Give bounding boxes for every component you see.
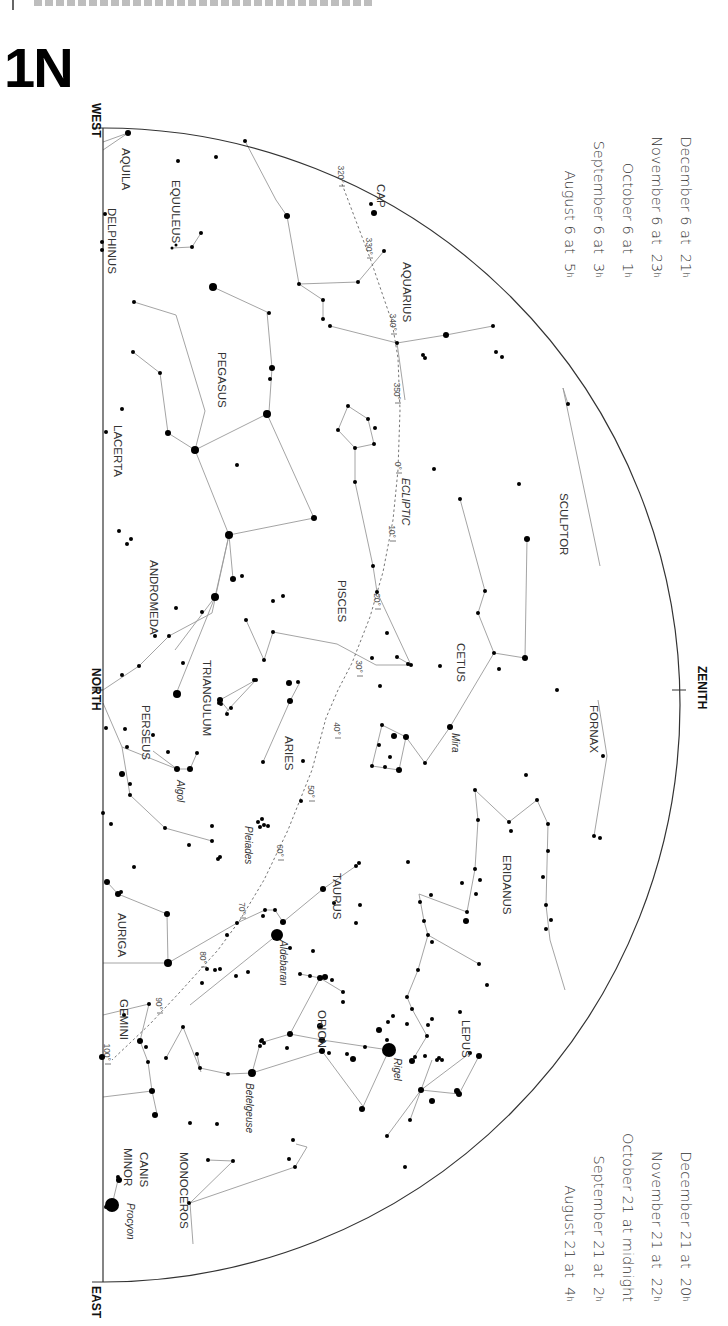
constellation-line [190, 1160, 233, 1244]
star [199, 231, 203, 235]
ecliptic-degree-label: 30° [354, 660, 364, 673]
star [507, 820, 511, 824]
star [298, 972, 302, 976]
star [158, 371, 162, 375]
star [285, 1046, 289, 1050]
constellation-line [372, 725, 406, 770]
star [405, 1022, 409, 1026]
star [284, 213, 290, 219]
date-line: November 6 at 23h [642, 78, 671, 278]
star [104, 879, 110, 885]
constellation-label: LACERTA [112, 425, 124, 477]
constellation-line [399, 737, 406, 770]
star [458, 497, 462, 501]
constellation-line [407, 935, 428, 1036]
star [195, 1052, 199, 1056]
star [477, 962, 481, 966]
star [268, 377, 272, 381]
constellation-label: CAP [375, 184, 387, 208]
star [353, 480, 357, 484]
star [211, 593, 219, 601]
star [104, 430, 108, 434]
star [391, 733, 397, 739]
star [423, 1054, 427, 1058]
star [423, 761, 427, 765]
star [388, 755, 392, 759]
constellation-lines [103, 133, 607, 1244]
constellation-line [421, 1056, 479, 1094]
star [271, 630, 275, 634]
constellation-line [296, 1144, 307, 1147]
star [125, 542, 129, 546]
ecliptic-degree-label: 70° [237, 902, 247, 915]
star [405, 995, 409, 999]
star [544, 903, 548, 907]
constellation-line [229, 535, 233, 579]
constellation-line [410, 1090, 421, 1120]
star [483, 589, 487, 593]
star [396, 767, 402, 773]
star [234, 974, 238, 978]
constellation-line [330, 326, 397, 343]
ecliptic-degree-label: 340° [388, 313, 398, 331]
date-line: December 6 at 21h [671, 78, 700, 278]
star [406, 860, 410, 864]
star [408, 1118, 412, 1122]
star [144, 1045, 148, 1049]
constellation-line [190, 1147, 307, 1203]
star [474, 892, 478, 896]
star [454, 1088, 460, 1094]
star [244, 618, 248, 622]
star [258, 825, 262, 829]
star [491, 324, 495, 328]
star [438, 664, 442, 668]
star [524, 773, 528, 777]
star [546, 849, 550, 853]
star [293, 1165, 297, 1169]
star [363, 1045, 367, 1049]
star [395, 655, 399, 659]
star [101, 811, 105, 815]
constellation-line [134, 302, 205, 450]
date-text: October 6 at [620, 163, 636, 254]
star [116, 1177, 122, 1183]
star [296, 680, 300, 684]
star [378, 684, 382, 688]
star [327, 1051, 331, 1055]
star [205, 967, 209, 971]
star [125, 130, 131, 136]
star [167, 634, 171, 638]
star [356, 280, 360, 284]
constellation-line [195, 450, 229, 535]
star [229, 706, 233, 710]
star [146, 1060, 150, 1064]
date-hour: 22 [649, 1269, 665, 1297]
star [164, 959, 172, 967]
star [319, 1048, 325, 1054]
star [181, 1025, 185, 1029]
constellation-label: ERIDANUS [501, 855, 513, 915]
constellation-line [283, 866, 356, 922]
star [218, 855, 222, 859]
star [243, 139, 247, 143]
star [430, 1017, 434, 1021]
star [476, 818, 480, 822]
star [358, 903, 362, 907]
star [214, 155, 218, 159]
star [460, 881, 464, 885]
star [497, 667, 501, 671]
star [385, 1038, 389, 1042]
date-hour: 23 [649, 245, 665, 273]
star [403, 734, 409, 740]
constellation-line [103, 703, 212, 841]
date-hour: 1 [620, 254, 636, 272]
star [418, 1087, 424, 1093]
star [416, 968, 420, 972]
date-text: August 6 at [562, 171, 578, 254]
star [190, 245, 194, 249]
star [256, 820, 260, 824]
constellation-label: ARIES [283, 736, 295, 771]
star [209, 283, 217, 291]
constellation-line [103, 1091, 152, 1097]
star [120, 673, 124, 677]
